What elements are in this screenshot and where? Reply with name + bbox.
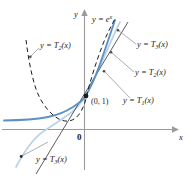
label-exp-exponent: x [110, 14, 113, 20]
label-exp-prefix: y = e [92, 14, 110, 24]
label-t3-bottom-suffix: (x) [58, 154, 67, 164]
leader-dot-t3-bottom [20, 155, 23, 158]
label-t3-bottom-sub: 3 [55, 159, 58, 165]
label-t1-right: y = T1(x) [123, 96, 154, 105]
y-axis-label: y [74, 10, 78, 19]
label-t2-left-prefix: y = T [40, 40, 59, 50]
label-exp-curve: y = ex [92, 15, 112, 24]
label-t1-right-sub: 1 [142, 100, 145, 106]
leader-dot-t2-right [110, 51, 113, 54]
label-t2-left-suffix: (x) [62, 40, 71, 50]
x-axis-label: x [179, 133, 183, 142]
label-t2-left-sub: 2 [59, 45, 62, 51]
label-t3-bottom: y = T3(x) [36, 155, 67, 164]
taylor-polynomial-figure: y x 0 (0, 1) y = ex y = T3(x) y = T2(x) … [0, 0, 196, 178]
label-t3-right-prefix: y = T [137, 39, 156, 49]
label-t1-right-suffix: (x) [145, 95, 154, 105]
label-t2-right-suffix: (x) [157, 67, 166, 77]
label-t2-right-prefix: y = T [135, 67, 154, 77]
point-label-0-1: (0, 1) [91, 98, 108, 106]
label-t3-right: y = T3(x) [137, 40, 168, 49]
label-t2-right-sub: 2 [154, 72, 157, 78]
leader-dot-t1-right [103, 70, 106, 73]
label-t2-right: y = T2(x) [135, 68, 166, 77]
label-t1-right-prefix: y = T [123, 95, 142, 105]
leader-line-t2-right [112, 53, 134, 72]
point-0-1 [84, 94, 89, 99]
leader-dot-t2-left [29, 56, 32, 59]
label-t3-right-sub: 3 [156, 44, 159, 50]
leader-line-t2-left [31, 48, 39, 56]
plot-canvas [0, 0, 196, 178]
x-axis-arrowhead [172, 126, 179, 132]
origin-label: 0 [77, 133, 82, 142]
label-t3-bottom-prefix: y = T [36, 154, 55, 164]
leader-dot-t3-right [117, 29, 120, 32]
label-t2-left: y = T2(x) [40, 41, 71, 50]
y-axis-arrowhead [81, 9, 87, 16]
label-t3-right-suffix: (x) [159, 39, 168, 49]
leader-line-t3-right [119, 31, 136, 44]
